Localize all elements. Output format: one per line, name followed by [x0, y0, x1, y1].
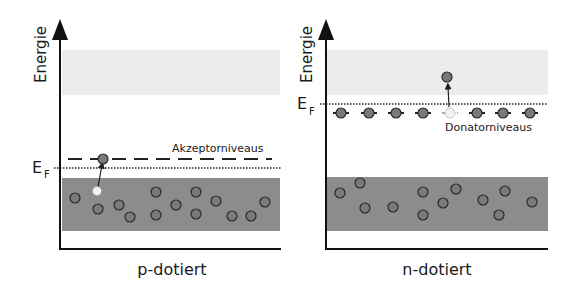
- axis-arrow-icon: [52, 19, 68, 40]
- panel-p-doped: Energie Akzeptorniveaus E F p-dot: [32, 19, 281, 279]
- panel-title: n-dotiert: [402, 260, 471, 279]
- fermi-label: E: [297, 94, 307, 113]
- donor-electrons: [336, 108, 535, 118]
- energy-axis-label: Energie: [32, 26, 50, 83]
- axis-arrow-icon: [318, 19, 334, 40]
- acceptor-level-label: Akzeptorniveaus: [172, 142, 264, 155]
- band-diagram: Energie Akzeptorniveaus E F p-dot: [0, 0, 574, 292]
- fermi-subscript: F: [309, 106, 315, 117]
- energy-axis-label: Energie: [298, 26, 316, 83]
- fermi-subscript: F: [44, 169, 50, 180]
- donor-level-label: Donatorniveaus: [445, 121, 532, 134]
- conduction-electron: [442, 72, 452, 82]
- panel-title: p-dotiert: [137, 260, 206, 279]
- acceptor-electron: [98, 154, 108, 164]
- conduction-band: [327, 50, 548, 95]
- conduction-band: [62, 50, 280, 95]
- panel-n-doped: Energie E F Donatorniveaus: [297, 19, 548, 279]
- hole: [93, 187, 102, 196]
- fermi-label: E: [32, 158, 42, 177]
- empty-donor: [445, 108, 455, 118]
